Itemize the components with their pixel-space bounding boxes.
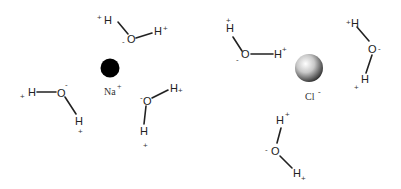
h-charge: + — [354, 83, 359, 92]
o-charge: - — [236, 55, 239, 64]
h-charge: + — [178, 86, 183, 95]
sodium-ion-sphere — [101, 59, 120, 78]
h-charge: + — [78, 127, 83, 136]
h-charge: + — [285, 110, 290, 119]
hydrogen-atom: H — [361, 73, 369, 85]
diagram-canvas: Na + Cl - + H - O H + + H - O H + - O H … — [0, 0, 401, 189]
hydrogen-atom: H — [351, 17, 359, 29]
hydrogen-atom: H — [274, 48, 282, 60]
sodium-ion: Na + — [101, 59, 123, 98]
hydrogen-atom: H — [170, 82, 178, 94]
h-charge: + — [163, 24, 168, 33]
hydrogen-atom: H — [276, 114, 284, 126]
chloride-charge: - — [318, 88, 321, 97]
hydrogen-atom: H — [226, 22, 234, 34]
sodium-charge: + — [117, 82, 122, 91]
o-charge: - — [378, 44, 381, 53]
hydrogen-atom: H — [140, 125, 148, 137]
o-charge: - — [265, 145, 268, 154]
h-charge: + — [282, 45, 287, 54]
hydrogen-atom: H — [28, 86, 36, 98]
oxygen-atom: O — [241, 48, 250, 60]
hydrogen-atom: H — [75, 115, 83, 127]
h-charge: + — [301, 174, 306, 183]
water-molecule: + H O - H + — [346, 17, 381, 92]
oxygen-atom: O — [127, 33, 136, 45]
hydrogen-atom: H — [154, 25, 162, 37]
hydrogen-atom: H — [293, 167, 301, 179]
h-charge: + — [97, 13, 102, 22]
water-molecule: H + - O H + — [265, 110, 306, 183]
water-molecule: + H - O H + — [97, 13, 168, 46]
chloride-label: Cl — [305, 91, 315, 102]
water-molecule: + H - O H + — [20, 80, 83, 136]
water-molecule: - O H + H + — [140, 82, 183, 150]
water-molecule: + H - O H + — [226, 16, 287, 64]
oxygen-atom: O — [368, 43, 377, 55]
sodium-label: Na — [104, 86, 116, 97]
h-charge: + — [20, 92, 25, 101]
oxygen-atom: O — [143, 95, 152, 107]
chloride-ion-sphere — [295, 54, 323, 82]
oxygen-atom: O — [271, 145, 280, 157]
hydrogen-atom: H — [104, 14, 112, 26]
oxygen-atom: O — [57, 87, 66, 99]
o-charge: - — [122, 37, 125, 46]
hydration-diagram: Na + Cl - + H - O H + + H - O H + - O H … — [0, 0, 401, 189]
h-charge: + — [143, 141, 148, 150]
chloride-ion: Cl - — [295, 54, 323, 102]
